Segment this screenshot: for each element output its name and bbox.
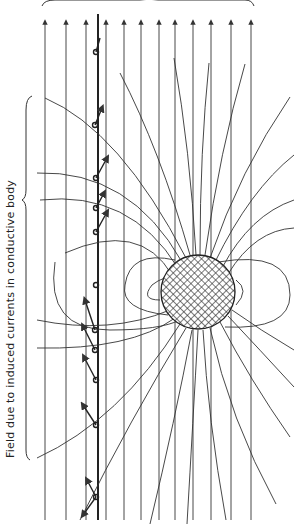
left-brace <box>22 96 32 460</box>
top-brace <box>42 0 254 6</box>
field-diagram <box>0 0 301 524</box>
conductive-sphere <box>161 255 235 329</box>
resultant-vectors <box>83 38 107 515</box>
